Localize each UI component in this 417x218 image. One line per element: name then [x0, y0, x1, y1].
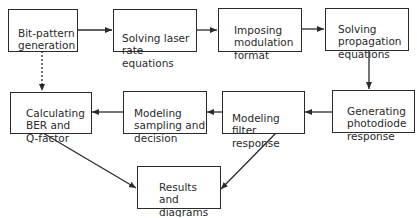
- node-solving-propagation-equations: Solving propagation equations: [325, 8, 409, 51]
- node-label: Solving laser rate equations: [122, 32, 196, 70]
- node-bit-pattern-generation: Bit-pattern generation: [8, 9, 78, 52]
- node-generating-photodiode-response: Generating photodiode response: [332, 90, 415, 133]
- node-label: Modeling sampling and decision: [134, 107, 206, 145]
- node-calculating-ber-and-q-factor: Calculating BER and Q-factor: [10, 92, 92, 134]
- node-label: Calculating BER and Q-factor: [26, 107, 91, 145]
- node-solving-laser-rate-equations: Solving laser rate equations: [113, 9, 197, 52]
- node-label: Results and diagrams: [159, 181, 220, 218]
- node-label: Generating photodiode response: [347, 105, 414, 143]
- node-modeling-sampling-and-decision: Modeling sampling and decision: [123, 91, 207, 134]
- node-label: Bit-pattern generation: [18, 27, 77, 52]
- node-label: Solving propagation equations: [338, 23, 408, 61]
- node-imposing-modulation-format: Imposing modulation format: [218, 8, 302, 52]
- node-label: Imposing modulation format: [234, 24, 301, 62]
- node-results-and-diagrams: Results and diagrams: [137, 166, 221, 209]
- node-label: Modeling filter response: [232, 112, 304, 150]
- node-modeling-filter-response: Modeling filter response: [222, 91, 305, 134]
